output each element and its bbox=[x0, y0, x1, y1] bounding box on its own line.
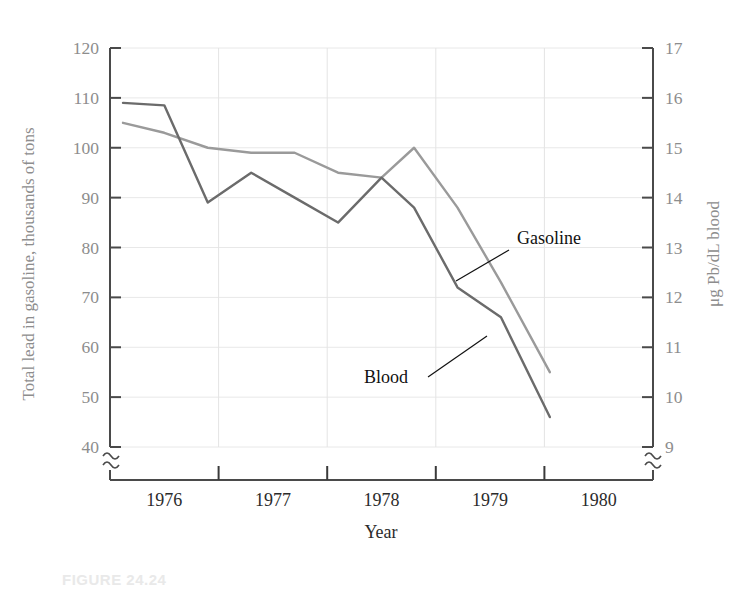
tick-label-left: 120 bbox=[73, 38, 100, 58]
tick-label-left: 70 bbox=[82, 287, 100, 307]
series-label-blood: Blood bbox=[364, 367, 408, 387]
tick-label-right: 10 bbox=[665, 387, 683, 407]
series-label-gasoline: Gasoline bbox=[517, 228, 581, 248]
tick-label-x: 1977 bbox=[255, 490, 291, 510]
tick-label-x: 1978 bbox=[364, 490, 400, 510]
tick-label-x: 1976 bbox=[146, 490, 182, 510]
lead-in-gasoline-and-blood-chart: 405060708090100110120 91011121314151617 … bbox=[0, 0, 752, 592]
tick-label-right: 9 bbox=[665, 437, 674, 457]
tick-label-right: 16 bbox=[665, 88, 683, 108]
figure-caption: FIGURE 24.24 bbox=[62, 571, 167, 588]
tick-label-right: 14 bbox=[665, 188, 683, 208]
right-axis-title: μg Pb/dL blood bbox=[704, 201, 723, 307]
tick-label-x: 1980 bbox=[581, 490, 617, 510]
tick-label-left: 80 bbox=[82, 238, 100, 258]
tick-label-left: 50 bbox=[82, 387, 100, 407]
tick-label-right: 11 bbox=[665, 337, 682, 357]
tick-label-x: 1979 bbox=[472, 490, 508, 510]
x-axis-title: Year bbox=[364, 522, 397, 542]
tick-label-left: 40 bbox=[82, 437, 100, 457]
tick-label-left: 60 bbox=[82, 337, 100, 357]
tick-label-right: 13 bbox=[665, 238, 683, 258]
tick-label-left: 90 bbox=[82, 188, 100, 208]
tick-label-right: 15 bbox=[665, 138, 683, 158]
right-axis-tick-labels: 91011121314151617 bbox=[665, 38, 683, 457]
tick-label-left: 100 bbox=[73, 138, 100, 158]
left-axis-title: Total lead in gasoline, thousands of ton… bbox=[19, 127, 38, 400]
tick-label-right: 12 bbox=[665, 287, 683, 307]
tick-label-right: 17 bbox=[665, 38, 683, 58]
tick-label-left: 110 bbox=[73, 88, 99, 108]
